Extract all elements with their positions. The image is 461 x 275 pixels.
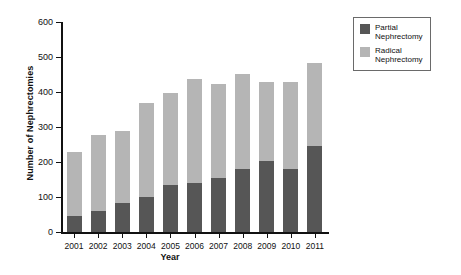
plot-area: 0100200300400500600 20012002200320042005… <box>62 22 327 232</box>
legend-item: Partial Nephrectomy <box>360 23 423 42</box>
bar-2008 <box>235 74 250 232</box>
y-tick-label: 200 <box>38 157 53 167</box>
x-tick-mark <box>267 233 268 238</box>
x-tick-label: 2008 <box>233 241 252 251</box>
y-tick-mark <box>56 57 61 58</box>
bar-segment-radical <box>259 82 274 161</box>
bar-2003 <box>115 131 130 233</box>
x-tick-label: 2010 <box>281 241 300 251</box>
bar-segment-radical <box>139 103 154 197</box>
x-tick-label: 2002 <box>89 241 108 251</box>
bar-segment-partial <box>67 216 82 232</box>
legend-item: Radical Nephrectomy <box>360 46 423 65</box>
y-tick-label: 300 <box>38 122 53 132</box>
y-tick-mark <box>56 127 61 128</box>
bar-segment-partial <box>211 178 226 232</box>
x-tick-label: 2003 <box>113 241 132 251</box>
bar-segment-partial <box>259 161 274 232</box>
x-tick-mark <box>170 233 171 238</box>
bar-segment-radical <box>235 74 250 170</box>
y-tick-mark <box>56 162 61 163</box>
bar-segment-partial <box>235 169 250 232</box>
bar-segment-radical <box>307 63 322 146</box>
x-tick-mark <box>315 233 316 238</box>
x-axis-title: Year <box>0 252 340 262</box>
bar-segment-radical <box>187 79 202 183</box>
x-tick-label: 2004 <box>137 241 156 251</box>
bar-2011 <box>307 63 322 232</box>
bar-segment-partial <box>163 185 178 232</box>
bar-segment-partial <box>187 183 202 232</box>
x-tick-label: 2009 <box>257 241 276 251</box>
legend-label: Partial Nephrectomy <box>375 23 423 42</box>
bar-segment-partial <box>139 197 154 232</box>
bar-segment-partial <box>115 203 130 232</box>
y-tick-label: 0 <box>48 227 53 237</box>
legend-label: Radical Nephrectomy <box>375 46 423 65</box>
bar-segment-radical <box>163 93 178 185</box>
x-tick-mark <box>146 233 147 238</box>
y-tick-label: 100 <box>38 192 53 202</box>
y-tick-label: 400 <box>38 87 53 97</box>
bar-segment-radical <box>115 131 130 204</box>
x-tick-label: 2007 <box>209 241 228 251</box>
bar-segment-radical <box>283 82 298 170</box>
x-tick-mark <box>291 233 292 238</box>
x-tick-mark <box>195 233 196 238</box>
x-tick-mark <box>74 233 75 238</box>
bar-2004 <box>139 103 154 232</box>
y-tick-label: 600 <box>38 17 53 27</box>
legend-swatch-icon <box>360 24 370 34</box>
stacked-bar-chart: Number of Nephrectomies Year 01002003004… <box>0 0 461 275</box>
x-tick-label: 2001 <box>65 241 84 251</box>
x-tick-mark <box>219 233 220 238</box>
bar-segment-partial <box>91 211 106 232</box>
y-axis-title: Number of Nephrectomies <box>25 23 35 223</box>
y-axis-line <box>61 22 63 233</box>
y-tick-label: 500 <box>38 52 53 62</box>
x-tick-label: 2011 <box>306 241 324 251</box>
bar-2010 <box>283 82 298 233</box>
x-tick-mark <box>243 233 244 238</box>
bar-segment-radical <box>67 152 82 215</box>
bar-2001 <box>67 152 82 232</box>
bar-segment-radical <box>91 135 106 211</box>
legend-swatch-icon <box>360 47 370 57</box>
bar-segment-partial <box>307 146 322 232</box>
bar-2007 <box>211 84 226 232</box>
bar-2005 <box>163 93 178 232</box>
bar-2009 <box>259 82 274 232</box>
x-tick-mark <box>98 233 99 238</box>
y-tick-mark <box>56 92 61 93</box>
y-tick-mark <box>56 197 61 198</box>
bar-2002 <box>91 135 106 232</box>
x-tick-label: 2006 <box>185 241 204 251</box>
bar-segment-radical <box>211 84 226 178</box>
bar-segment-partial <box>283 169 298 232</box>
x-tick-mark <box>122 233 123 238</box>
chart-legend: Partial NephrectomyRadical Nephrectomy <box>353 17 431 71</box>
bar-2006 <box>187 79 202 232</box>
y-tick-mark <box>56 22 61 23</box>
x-tick-label: 2005 <box>161 241 180 251</box>
y-tick-mark <box>56 232 61 233</box>
